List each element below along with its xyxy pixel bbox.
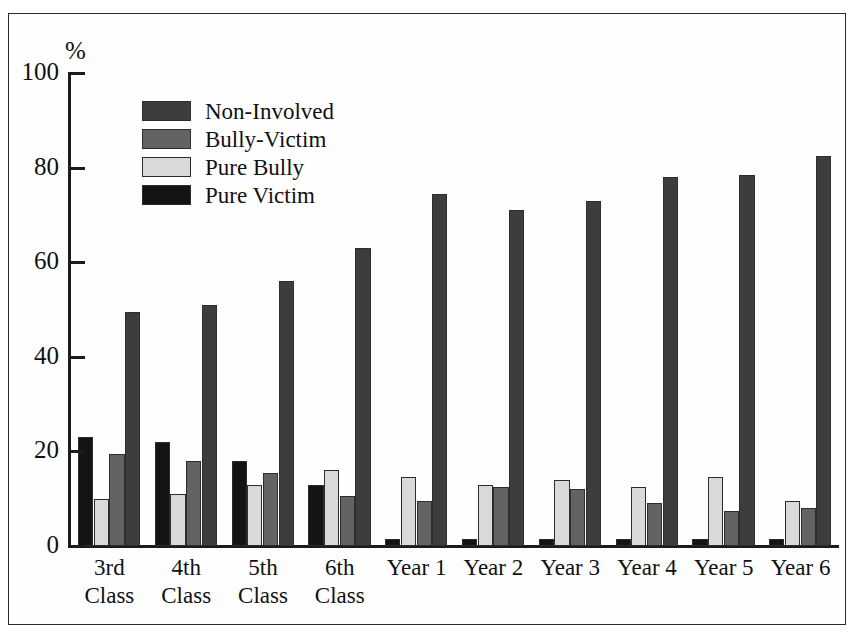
bar bbox=[616, 539, 631, 546]
bar bbox=[554, 480, 569, 546]
x-axis-category-label: 6thClass bbox=[301, 554, 378, 610]
bar bbox=[570, 489, 585, 546]
bar bbox=[417, 501, 432, 546]
bar-group bbox=[609, 73, 686, 546]
bar-group bbox=[762, 73, 839, 546]
legend-swatch-icon bbox=[142, 185, 191, 205]
y-axis-unit-label: % bbox=[65, 37, 86, 65]
x-axis-category-label-line: 3rd bbox=[71, 554, 148, 582]
bar bbox=[340, 496, 355, 546]
bar bbox=[109, 454, 124, 546]
x-axis-category-label: Year 5 bbox=[685, 554, 762, 582]
x-axis-category-label-line: Class bbox=[148, 582, 225, 610]
bar bbox=[692, 539, 707, 546]
chart-legend: Non-InvolvedBully-VictimPure BullyPure V… bbox=[142, 98, 334, 210]
x-axis-category-label: Year 1 bbox=[378, 554, 455, 582]
bar bbox=[647, 503, 662, 546]
y-axis-tick-20 bbox=[68, 450, 85, 453]
y-axis-tick-40 bbox=[68, 356, 85, 359]
chart-plot-area: % 020406080100 3rdClass4thClass5thClass6… bbox=[9, 14, 847, 626]
bar bbox=[462, 539, 477, 546]
y-axis-tick-0 bbox=[68, 545, 85, 548]
chart-figure-frame: % 020406080100 3rdClass4thClass5thClass6… bbox=[8, 13, 846, 625]
x-axis-category-label: Year 2 bbox=[455, 554, 532, 582]
legend-swatch-icon bbox=[142, 101, 191, 121]
bar bbox=[401, 477, 416, 546]
legend-item: Non-Involved bbox=[142, 98, 334, 124]
bar bbox=[739, 175, 754, 546]
y-axis-label-60: 60 bbox=[3, 248, 59, 273]
bar bbox=[170, 494, 185, 546]
bar bbox=[279, 281, 294, 546]
y-axis-label-0: 0 bbox=[3, 532, 59, 557]
x-axis-category-label: Year 4 bbox=[609, 554, 686, 582]
bar bbox=[801, 508, 816, 546]
bar-group bbox=[378, 73, 455, 546]
bar bbox=[493, 487, 508, 546]
x-axis-category-label-line: Year 2 bbox=[455, 554, 532, 582]
bar bbox=[724, 511, 739, 546]
bar bbox=[232, 461, 247, 546]
bar bbox=[155, 442, 170, 546]
bar bbox=[478, 485, 493, 546]
x-axis-category-label-line: Year 5 bbox=[685, 554, 762, 582]
bar bbox=[247, 485, 262, 546]
legend-label: Non-Involved bbox=[205, 100, 334, 123]
bar bbox=[186, 461, 201, 546]
bar bbox=[355, 248, 370, 546]
x-axis-category-label: Year 6 bbox=[762, 554, 839, 582]
bar bbox=[769, 539, 784, 546]
legend-swatch-icon bbox=[142, 129, 191, 149]
x-axis-category-label-line: Class bbox=[225, 582, 302, 610]
x-axis-category-label-line: Year 4 bbox=[609, 554, 686, 582]
bar bbox=[324, 470, 339, 546]
legend-item: Pure Bully bbox=[142, 154, 334, 180]
x-axis-category-label-line: 6th bbox=[301, 554, 378, 582]
bar bbox=[586, 201, 601, 546]
bar-group bbox=[71, 73, 148, 546]
bar bbox=[816, 156, 831, 546]
x-axis-category-label: 3rdClass bbox=[71, 554, 148, 610]
bar bbox=[94, 499, 109, 546]
y-axis-tick-100 bbox=[68, 72, 85, 75]
x-axis-category-label-line: Class bbox=[71, 582, 148, 610]
legend-swatch-icon bbox=[142, 157, 191, 177]
x-axis-category-label: 5thClass bbox=[225, 554, 302, 610]
bar bbox=[308, 485, 323, 546]
legend-label: Pure Bully bbox=[205, 156, 304, 179]
bar bbox=[631, 487, 646, 546]
legend-label: Bully-Victim bbox=[205, 128, 326, 151]
bar bbox=[539, 539, 554, 546]
bar bbox=[509, 210, 524, 546]
y-axis-label-100: 100 bbox=[3, 59, 59, 84]
y-axis-tick-80 bbox=[68, 167, 85, 170]
bar bbox=[663, 177, 678, 546]
bar-group bbox=[685, 73, 762, 546]
bar bbox=[785, 501, 800, 546]
x-axis-category-label-line: Class bbox=[301, 582, 378, 610]
bar bbox=[125, 312, 140, 546]
y-axis-tick-labels: 020406080100 bbox=[3, 14, 59, 626]
y-axis-label-80: 80 bbox=[3, 154, 59, 179]
legend-item: Pure Victim bbox=[142, 182, 334, 208]
bar bbox=[385, 539, 400, 546]
bar-group bbox=[455, 73, 532, 546]
x-axis-category-label-line: 5th bbox=[225, 554, 302, 582]
x-axis-category-labels: 3rdClass4thClass5thClass6thClassYear 1Ye… bbox=[71, 554, 839, 620]
bar bbox=[708, 477, 723, 546]
bar bbox=[263, 473, 278, 546]
x-axis-category-label-line: Year 6 bbox=[762, 554, 839, 582]
y-axis-label-20: 20 bbox=[3, 437, 59, 462]
x-axis-category-label-line: Year 3 bbox=[532, 554, 609, 582]
y-axis-tick-60 bbox=[68, 261, 85, 264]
bar bbox=[78, 437, 93, 546]
bar bbox=[202, 305, 217, 546]
bar-group bbox=[532, 73, 609, 546]
y-axis-label-40: 40 bbox=[3, 343, 59, 368]
x-axis-category-label: Year 3 bbox=[532, 554, 609, 582]
legend-item: Bully-Victim bbox=[142, 126, 334, 152]
x-axis-category-label: 4thClass bbox=[148, 554, 225, 610]
x-axis-category-label-line: Year 1 bbox=[378, 554, 455, 582]
legend-label: Pure Victim bbox=[205, 184, 315, 207]
bar bbox=[432, 194, 447, 546]
